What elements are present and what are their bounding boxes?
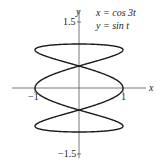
y-tick-label-bottom: −1.5 — [58, 148, 76, 159]
x-axis-label: x — [148, 82, 154, 93]
eq-y-text: y = sin t — [95, 20, 129, 31]
eq-x-text: x = cos 3t — [95, 7, 136, 18]
equation-x: x = cos 3t — [95, 7, 136, 18]
y-tick-label-top: 1.5 — [63, 16, 76, 27]
x-tick-label-pos: 1 — [121, 91, 126, 102]
x-tick-label-neg: −1 — [28, 91, 39, 102]
y-axis-label: y — [75, 6, 81, 17]
parametric-plot: y x 1.5 −1.5 −1 1 x = cos 3t y = sin t — [0, 0, 161, 160]
equation-y: y = sin t — [95, 20, 129, 31]
